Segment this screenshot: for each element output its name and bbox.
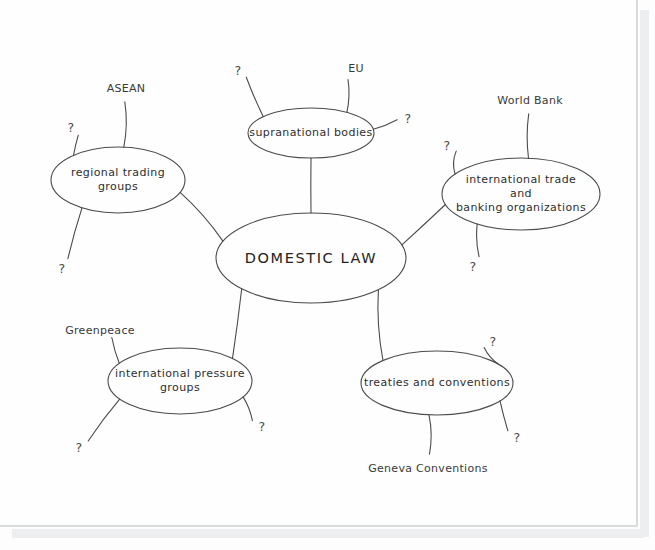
branch-node-ellipse-regional-trading-groups (51, 147, 185, 213)
edge-international-trade-banking-to-q-itb-left (453, 151, 456, 174)
connector-edges (68, 77, 529, 454)
edge-central-to-international-pressure-groups (233, 289, 242, 359)
central-node-ellipse (216, 213, 406, 303)
edge-central-to-treaties-and-conventions (378, 290, 383, 361)
edge-international-pressure-groups-to-q-ipg-bottomleft (88, 399, 120, 441)
edge-treaties-and-conventions-to-q-tc-topright (484, 348, 498, 364)
edge-central-to-international-trade-banking (402, 205, 446, 245)
mind-map-svg (0, 0, 655, 550)
edge-central-to-regional-trading-groups (180, 192, 223, 241)
edge-international-pressure-groups-to-q-ipg-bottomright (243, 397, 252, 421)
edge-international-pressure-groups-to-greenpeace (112, 338, 120, 364)
branch-node-ellipse-treaties-and-conventions (361, 351, 513, 415)
edge-supranational-bodies-to-eu (347, 80, 349, 113)
edge-international-trade-banking-to-q-itb-bottom (477, 224, 480, 257)
edge-supranational-bodies-to-q-sb-right (373, 120, 397, 130)
edge-treaties-and-conventions-to-geneva-conventions (429, 415, 431, 454)
edge-treaties-and-conventions-to-q-tc-right (500, 401, 508, 431)
diagram-canvas: DOMESTIC LAWregional trading groupsASEAN… (0, 0, 655, 550)
edge-international-trade-banking-to-world-bank (527, 114, 529, 158)
branch-node-ellipse-supranational-bodies (248, 108, 374, 158)
edge-regional-trading-groups-to-q-rtg-bottom (68, 208, 82, 259)
node-ellipses (51, 108, 600, 415)
branch-node-ellipse-international-trade-banking (442, 158, 600, 230)
edge-supranational-bodies-to-q-sb-left (246, 77, 263, 117)
branch-node-ellipse-international-pressure-groups (108, 348, 252, 414)
edge-regional-trading-groups-to-asean (124, 102, 127, 147)
edge-regional-trading-groups-to-q-rtg-left (74, 135, 79, 155)
